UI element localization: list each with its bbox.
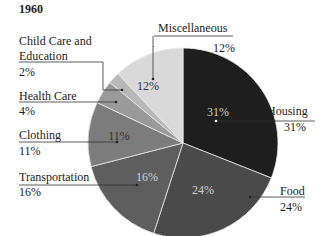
inner-label: 31% (207, 105, 229, 119)
leader-dot (152, 78, 155, 81)
inner-label: 16% (136, 170, 158, 184)
leader-dot (115, 101, 118, 104)
label-childcare-value: 2% (19, 65, 35, 79)
label-transportation-value: 16% (19, 185, 41, 199)
inner-label: 12% (137, 79, 159, 93)
label-childcare-line1: Child Care and (19, 34, 92, 48)
leader-dot (136, 184, 139, 187)
label-food-name: Food (280, 184, 305, 198)
leader-dot (249, 196, 252, 199)
inner-label: 24% (192, 183, 214, 197)
leader-dot (116, 141, 119, 144)
label-housing-value: 31% (284, 120, 306, 134)
chart-title: 1960 (19, 2, 43, 17)
leader-dot (121, 89, 124, 92)
label-clothing-name: Clothing (19, 128, 61, 142)
label-health-name: Health Care (19, 89, 77, 103)
label-housing-name: Housing (267, 104, 308, 118)
label-clothing-value: 11% (19, 144, 41, 158)
label-childcare-line2: Education (19, 49, 68, 63)
leader-dot (215, 120, 218, 123)
inner-label: 11% (108, 129, 130, 143)
label-health-value: 4% (19, 104, 35, 118)
label-misc-value: 12% (213, 41, 235, 55)
label-misc-name: Miscellaneous (158, 21, 227, 35)
label-food-value: 24% (280, 200, 302, 214)
label-transportation-name: Transportation (19, 170, 89, 184)
